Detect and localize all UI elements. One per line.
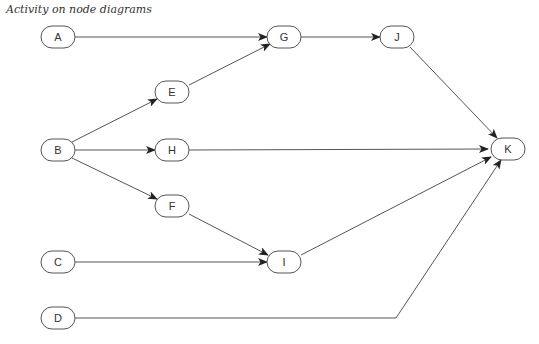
node-label: H: [168, 144, 176, 156]
node-g: G: [267, 26, 301, 48]
node-label: A: [54, 31, 62, 43]
edge-h-to-k: [189, 149, 488, 150]
node-f: F: [155, 195, 189, 217]
node-b: B: [41, 139, 75, 161]
node-j: J: [380, 26, 414, 48]
node-c: C: [41, 251, 75, 273]
edge-d-to-k: [75, 160, 501, 318]
node-label: I: [282, 256, 285, 268]
activity-on-node-diagram: AGJEBHKFCID: [0, 0, 539, 344]
edge-e-to-g: [189, 44, 270, 85]
edge-b-to-f: [72, 158, 157, 199]
node-label: C: [54, 256, 62, 268]
node-e: E: [155, 81, 189, 103]
node-label: F: [169, 200, 176, 212]
nodes: AGJEBHKFCID: [41, 26, 525, 329]
edge-i-to-k: [301, 157, 491, 255]
node-label: E: [168, 86, 175, 98]
edges: [72, 37, 501, 318]
node-h: H: [155, 139, 189, 161]
node-label: J: [394, 31, 400, 43]
node-d: D: [41, 307, 75, 329]
node-label: D: [54, 312, 62, 324]
node-k: K: [491, 138, 525, 160]
edge-j-to-k: [410, 47, 497, 138]
edge-b-to-e: [72, 99, 157, 142]
node-label: G: [280, 31, 289, 43]
node-a: A: [41, 26, 75, 48]
node-i: I: [267, 251, 301, 273]
node-label: K: [504, 143, 512, 155]
node-label: B: [54, 144, 61, 156]
edge-f-to-i: [189, 214, 268, 255]
